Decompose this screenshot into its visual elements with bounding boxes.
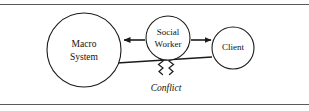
social-worker-label-line2: Worker: [155, 39, 182, 49]
macro-system-label-line1: Macro: [72, 39, 97, 49]
node-macro-system: Macro System: [47, 13, 121, 87]
diagram-canvas: Conflict Macro System Social Worker Clie…: [0, 0, 309, 111]
figure-container: Conflict Macro System Social Worker Clie…: [0, 0, 309, 111]
client-label: Client: [222, 42, 244, 52]
node-client: Client: [212, 27, 254, 69]
node-social-worker: Social Worker: [146, 16, 190, 60]
macro-system-label-line2: System: [70, 52, 99, 62]
social-worker-circle: [146, 16, 190, 60]
conflict-edge-label: Conflict: [151, 83, 182, 93]
macro-system-circle: [47, 13, 121, 87]
conflict-link-group: Conflict: [117, 57, 212, 93]
social-worker-label-line1: Social: [157, 27, 180, 37]
